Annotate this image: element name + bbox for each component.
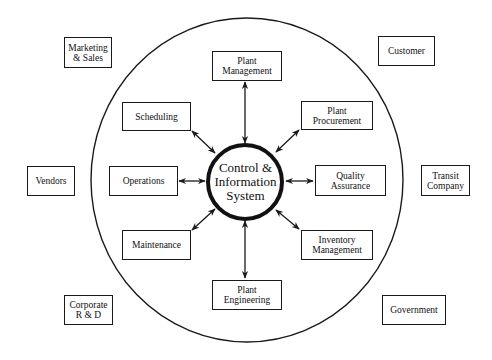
node-scheduling: Scheduling	[122, 102, 191, 131]
diagram-canvas: Control & Information System Plant Manag…	[0, 0, 492, 360]
node-quality-assurance: Quality Assurance	[315, 165, 386, 196]
node-maintenance: Maintenance	[122, 230, 191, 260]
arrow-maintenance	[192, 209, 215, 230]
node-plant-procurement: Plant Procurement	[301, 101, 373, 130]
node-customer: Customer	[378, 36, 435, 66]
node-plant-management: Plant Management	[212, 51, 282, 81]
arrow-plant-procurement	[276, 130, 299, 152]
node-transit-company: Transit Company	[421, 165, 470, 196]
node-operations: Operations	[109, 166, 178, 196]
node-government: Government	[382, 295, 446, 325]
control-information-system-label: Control & Information System	[208, 156, 283, 208]
node-inventory-management: Inventory Management	[301, 230, 373, 260]
node-corporate-rd: Corporate R & D	[64, 295, 113, 325]
node-vendors: Vendors	[27, 166, 75, 196]
node-marketing-sales: Marketing & Sales	[64, 37, 112, 68]
arrow-inventory-management	[276, 210, 299, 229]
arrow-scheduling	[192, 131, 215, 153]
node-plant-engineering: Plant Engineering	[212, 280, 282, 310]
